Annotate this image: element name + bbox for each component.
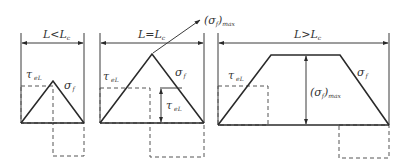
- panel-critical-fiber: L=Lc (σf)max τeL τeL σf: [100, 14, 236, 157]
- tau-label: τeL: [26, 68, 42, 81]
- tau-label: τeL: [228, 69, 244, 82]
- sigma-label: σf: [64, 79, 77, 93]
- sigma-label: σf: [357, 66, 370, 80]
- shear-stress-region: [100, 88, 150, 123]
- max-stress-label: (σf)max: [310, 86, 342, 100]
- shear-stress-region-lower: [150, 123, 204, 157]
- length-label: L>Lc: [293, 28, 322, 41]
- shear-stress-region-lower: [339, 125, 389, 158]
- panel-short-fiber: L<Lc τeL σf: [21, 28, 84, 156]
- length-label: L=Lc: [137, 28, 166, 41]
- shear-stress-region-lower: [53, 123, 84, 156]
- tau-inner-label: τeL: [166, 99, 182, 112]
- length-label: L<Lc: [42, 28, 71, 41]
- fiber-stress-diagram: L<Lc τeL σf L=Lc (σf)max τeL τeL σf L>Lc: [0, 0, 408, 168]
- sigma-label: σf: [175, 66, 188, 80]
- panel-long-fiber: L>Lc (σf)max τeL σf: [218, 28, 389, 158]
- tau-label: τeL: [103, 70, 119, 83]
- max-stress-label: (σf)max: [204, 14, 236, 28]
